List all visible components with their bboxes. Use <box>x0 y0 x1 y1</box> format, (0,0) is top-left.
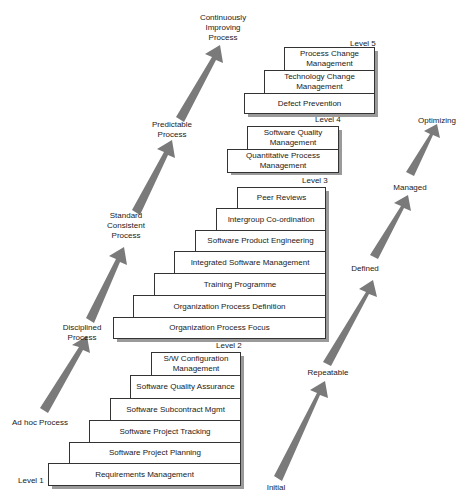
arrow-predictable-to-continuous <box>176 45 223 122</box>
label-managed: Managed <box>385 183 435 193</box>
label-repeatable: Repeatable <box>300 368 356 378</box>
kpa-label: Software Project Planning <box>109 448 201 458</box>
arrow-managed-to-optimizing <box>406 124 440 176</box>
kpa-label: Defect Prevention <box>278 99 342 109</box>
kpa-software-product-engineering: Software Product Engineering <box>195 230 326 252</box>
kpa-label: Software Quality Assurance <box>136 382 234 392</box>
kpa-software-project-planning: Software Project Planning <box>69 442 241 464</box>
label-standard-consistent-process: Standard Consistent Process <box>104 211 148 241</box>
label-disciplined-process: Disciplined Process <box>60 323 104 343</box>
kpa-label: Peer Reviews <box>257 193 306 203</box>
kpa-label: Software Subcontract Mgmt <box>126 405 225 415</box>
kpa-software-subcontract-mgmt: Software Subcontract Mgmt <box>110 398 241 421</box>
kpa-technology-change-management: Technology Change Management <box>264 70 375 94</box>
level5-label: Level 5 <box>350 39 376 49</box>
kpa-organization-process-definition: Organization Process Definition <box>133 295 326 318</box>
kpa-requirements-management: Requirements Management <box>48 463 241 486</box>
kpa-software-quality-assurance: Software Quality Assurance <box>130 375 241 399</box>
kpa-label: Intergroup Co-ordination <box>228 215 315 225</box>
kpa-quantitative-process-management: Quantitative Process Management <box>227 149 339 173</box>
kpa-intergroup-coordination: Intergroup Co-ordination <box>216 208 326 231</box>
label-adhoc-process: Ad hoc Process <box>8 418 72 428</box>
kpa-label: Organization Process Focus <box>169 323 270 333</box>
level1-label: Level 1 <box>18 476 44 486</box>
label-predictable-process: Predictable Process <box>147 120 197 140</box>
arrow-defined-to-managed <box>370 195 411 259</box>
kpa-label: Quantitative Process Management <box>228 151 338 171</box>
kpa-defect-prevention: Defect Prevention <box>244 93 375 114</box>
kpa-label: Software Project Tracking <box>119 427 210 437</box>
kpa-software-project-tracking: Software Project Tracking <box>89 420 241 443</box>
kpa-label: Organization Process Definition <box>173 302 285 312</box>
kpa-label: Requirements Management <box>95 470 194 480</box>
level3-label: Level 3 <box>302 176 328 186</box>
kpa-label: S/W Configuration Management <box>152 354 240 374</box>
kpa-label: Training Programme <box>204 280 277 290</box>
kpa-training-programme: Training Programme <box>154 273 326 296</box>
kpa-sw-configuration-management: S/W Configuration Management <box>151 352 241 376</box>
kpa-label: Process Change Management <box>285 49 374 69</box>
label-optimizing: Optimizing <box>410 116 464 126</box>
arrow-initial-to-repeatable <box>274 381 328 481</box>
label-defined: Defined <box>345 264 385 274</box>
cmm-diagram: Requirements Management Software Project… <box>0 0 467 502</box>
kpa-organization-process-focus: Organization Process Focus <box>113 317 326 339</box>
level2-label: Level 2 <box>216 341 242 351</box>
kpa-label: Software Quality Management <box>248 128 338 148</box>
arrow-repeatable-to-defined <box>323 280 377 366</box>
arrow-standard-to-predictable <box>132 140 175 215</box>
kpa-process-change-management: Process Change Management <box>284 47 375 71</box>
label-initial: Initial <box>256 483 296 493</box>
kpa-label: Technology Change Management <box>265 72 374 92</box>
kpa-software-quality-management: Software Quality Management <box>247 126 339 150</box>
kpa-label: Software Product Engineering <box>207 236 313 246</box>
arrow-adhoc-to-disciplined <box>40 336 90 413</box>
label-continuously-improving-process: Continuously Improving Process <box>190 13 256 43</box>
arrow-disciplined-to-standard <box>86 247 127 323</box>
kpa-integrated-software-management: Integrated Software Management <box>174 251 326 274</box>
kpa-label: Integrated Software Management <box>191 258 310 268</box>
kpa-peer-reviews: Peer Reviews <box>237 187 326 209</box>
